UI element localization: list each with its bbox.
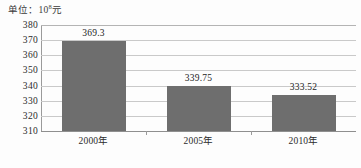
y-axis-tick-labels: 380370360350340330320310	[0, 0, 38, 168]
unit-caption-suffix: 元	[52, 5, 62, 15]
bar-value-label: 369.3	[54, 28, 134, 39]
y-axis-tick-label: 370	[4, 35, 38, 45]
x-axis-tick-mark	[146, 131, 147, 135]
y-axis-tick-label: 350	[4, 65, 38, 75]
x-axis-tick-label: 2010年	[264, 135, 344, 147]
gridline	[41, 131, 356, 132]
y-axis-tick-label: 360	[4, 50, 38, 60]
y-axis-tick-label: 320	[4, 111, 38, 121]
bar-value-label: 333.52	[264, 82, 344, 93]
x-axis-tick-label: 2000年	[54, 135, 134, 147]
bar[interactable]	[62, 41, 126, 131]
y-axis-tick-label: 380	[4, 20, 38, 30]
x-axis-tick-label: 2005年	[159, 135, 239, 147]
bar-value-label: 339.75	[159, 73, 239, 84]
y-axis-tick-label: 310	[4, 126, 38, 136]
bar[interactable]	[272, 95, 336, 131]
bars-layer: 369.3339.75333.52	[41, 25, 356, 131]
x-axis-tick-labels: 2000年2005年2010年	[41, 135, 356, 155]
y-axis-tick-label: 330	[4, 96, 38, 106]
y-axis-tick-label: 340	[4, 81, 38, 91]
plot-area: 369.3339.75333.52	[41, 25, 356, 131]
x-axis-tick-mark	[251, 131, 252, 135]
bar[interactable]	[167, 86, 231, 131]
bar-chart-figure: 单位：108元 380370360350340330320310 369.333…	[0, 0, 361, 168]
